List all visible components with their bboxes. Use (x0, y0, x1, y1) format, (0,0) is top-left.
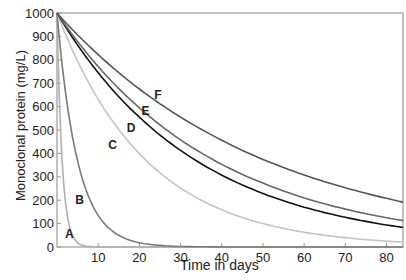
curve-labels: ABCDEF (65, 88, 162, 241)
y-axis-ticks: 01002003004005006007008009001000 (25, 6, 61, 255)
curve-label-e: E (142, 104, 150, 118)
y-tick-label: 800 (32, 52, 54, 67)
curve-d (57, 13, 403, 227)
curve-label-c: C (108, 138, 117, 152)
y-tick-label: 1000 (25, 6, 54, 21)
x-tick-label: 80 (379, 250, 393, 265)
x-tick-label: 20 (132, 250, 146, 265)
curve-a (57, 13, 403, 247)
y-tick-label: 400 (32, 146, 54, 161)
curve-c (57, 13, 403, 242)
y-tick-label: 600 (32, 99, 54, 114)
x-axis-label: Time in days (180, 257, 259, 273)
decay-chart: 01002003004005006007008009001000 1020304… (0, 0, 406, 280)
y-tick-label: 700 (32, 76, 54, 91)
y-tick-label: 300 (32, 169, 54, 184)
y-tick-label: 0 (47, 240, 54, 255)
y-tick-label: 900 (32, 29, 54, 44)
y-tick-label: 500 (32, 123, 54, 138)
curve-b (57, 13, 403, 247)
y-axis-label: Monoclonal protein (mg/L) (13, 46, 28, 206)
y-tick-label: 100 (32, 216, 54, 231)
curve-label-f: F (154, 88, 161, 102)
curve-f (57, 13, 403, 202)
curve-label-a: A (65, 227, 74, 241)
curve-label-b: B (75, 193, 84, 207)
x-tick-label: 60 (297, 250, 311, 265)
curves (57, 13, 403, 247)
x-tick-label: 70 (338, 250, 352, 265)
plot-frame (57, 13, 403, 247)
y-tick-label: 200 (32, 193, 54, 208)
x-tick-label: 10 (91, 250, 105, 265)
curve-label-d: D (127, 121, 136, 135)
